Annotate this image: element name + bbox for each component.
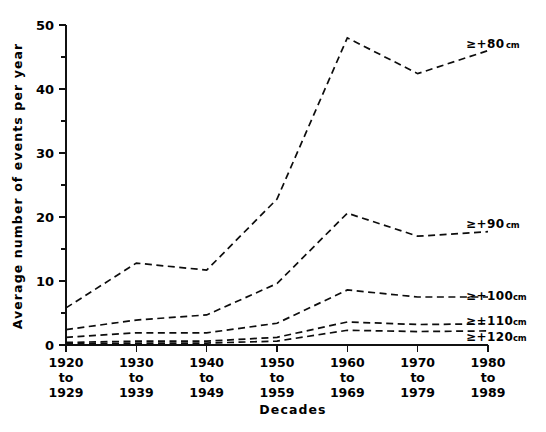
series-line-2 [66, 290, 488, 337]
chart-axes [59, 25, 488, 352]
x-axis-tick-label: 1959 [260, 385, 295, 400]
series-line-0 [66, 38, 488, 308]
x-axis-tick-label: 1960 [330, 355, 365, 370]
series-labels: ≥+80cm≥+90cm≥+100cm≥+110cm≥+120cm [466, 37, 527, 344]
x-axis-tick-label: 1940 [189, 355, 224, 370]
x-axis-tick-label: 1939 [119, 385, 154, 400]
x-axis-tick-label: 1980 [471, 355, 506, 370]
y-axis-tick-labels: 01020304050 [36, 18, 54, 353]
series-unit-2: cm [513, 292, 527, 302]
x-axis-tick-label: to [199, 370, 214, 385]
line-chart: 01020304050 1920to19291930to19391940to19… [0, 0, 546, 432]
x-axis-tick-label: to [481, 370, 496, 385]
series-label-4: ≥+120 [466, 330, 513, 344]
y-axis-tick-label: 10 [36, 274, 54, 289]
series-label-3: ≥+110 [466, 314, 513, 328]
x-axis-tick-label: 1929 [49, 385, 84, 400]
series-label-0: ≥+80 [466, 37, 504, 51]
x-axis-title: Decades [259, 402, 326, 417]
x-axis-tick-label: to [340, 370, 355, 385]
series-label-1: ≥+90 [466, 217, 504, 231]
y-axis-tick-label: 50 [36, 18, 54, 33]
x-axis-tick-label: to [410, 370, 425, 385]
series-unit-4: cm [513, 333, 527, 343]
y-axis-title: Average number of events per year [10, 43, 25, 330]
series-unit-1: cm [506, 220, 520, 230]
chart-series [66, 38, 488, 344]
x-axis-tick-label: to [129, 370, 144, 385]
x-axis-tick-label: 1979 [400, 385, 435, 400]
series-line-1 [66, 213, 488, 329]
x-axis-tick-label: 1969 [330, 385, 365, 400]
chart-container: 01020304050 1920to19291930to19391940to19… [0, 0, 546, 432]
x-axis-tick-label: 1950 [260, 355, 295, 370]
axis-lines [66, 25, 488, 345]
series-unit-3: cm [513, 317, 527, 327]
x-axis-tick-label: 1920 [49, 355, 84, 370]
x-axis-tick-label: 1989 [471, 385, 506, 400]
y-axis-tick-label: 0 [45, 338, 54, 353]
x-axis-tick-label: 1970 [400, 355, 435, 370]
series-unit-0: cm [506, 40, 520, 50]
x-axis-tick-label: to [59, 370, 74, 385]
x-axis-tick-label: 1949 [189, 385, 224, 400]
series-label-2: ≥+100 [466, 289, 513, 303]
y-axis-tick-label: 30 [36, 146, 54, 161]
x-axis-tick-labels: 1920to19291930to19391940to19491950to1959… [49, 355, 506, 400]
y-axis-tick-label: 20 [36, 210, 54, 225]
x-axis-tick-label: 1930 [119, 355, 154, 370]
y-axis-tick-label: 40 [36, 82, 54, 97]
x-axis-tick-label: to [270, 370, 285, 385]
